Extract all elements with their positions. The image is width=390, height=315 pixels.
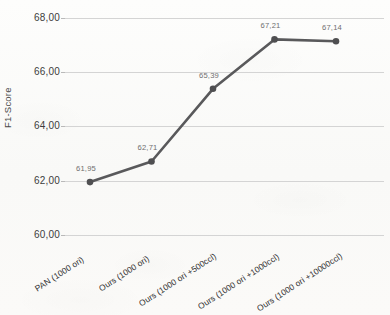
data-point-marker [148, 158, 155, 165]
data-label-point-5: 67,14 [322, 23, 342, 32]
data-point-marker [210, 86, 217, 93]
data-point-marker [87, 179, 94, 186]
data-label-point-3: 65,39 [199, 71, 219, 80]
data-label-point-4: 67,21 [261, 21, 281, 30]
data-point-marker [333, 38, 340, 45]
series-line-f1-score [90, 39, 336, 182]
data-point-marker [271, 36, 278, 43]
data-label-point-1: 61,95 [76, 164, 96, 173]
data-label-point-2: 62,71 [138, 143, 158, 152]
line-chart: F1-Score 68,00 66,00 64,00 62,00 60,00 6… [0, 0, 390, 315]
